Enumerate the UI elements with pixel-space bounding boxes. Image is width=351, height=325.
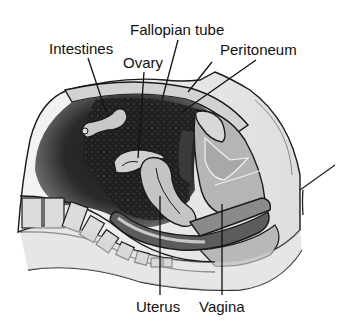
label-uterus: Uterus bbox=[136, 298, 180, 315]
thigh-outline-3 bbox=[303, 190, 304, 215]
thigh-outline-2 bbox=[300, 165, 335, 190]
anatomy-diagram: Intestines Ovary Fallopian tube Peritone… bbox=[0, 0, 351, 325]
label-ovary: Ovary bbox=[123, 54, 164, 71]
label-vagina: Vagina bbox=[199, 298, 245, 315]
label-intestines: Intestines bbox=[49, 40, 113, 57]
intestine-lumen bbox=[82, 128, 88, 134]
label-peritoneum: Peritoneum bbox=[220, 41, 297, 58]
label-fallopian-tube: Fallopian tube bbox=[130, 21, 224, 38]
